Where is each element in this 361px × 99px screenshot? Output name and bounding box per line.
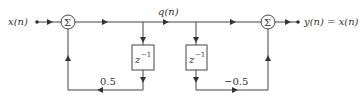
gain1-label: 0.5 bbox=[100, 76, 116, 87]
mid-label: q(n) bbox=[158, 6, 179, 17]
delay2-exp: −1 bbox=[195, 51, 205, 59]
block-diagram: Σ Σ x(n) q(n) y(n) = x(n) z −1 z −1 0.5 … bbox=[0, 0, 361, 99]
output-label: y(n) = x(n) bbox=[303, 16, 359, 27]
sum-symbol-2: Σ bbox=[264, 17, 271, 28]
output-node bbox=[296, 20, 300, 24]
delay1-base: z bbox=[134, 54, 141, 65]
input-node bbox=[35, 20, 39, 24]
input-label: x(n) bbox=[8, 16, 28, 27]
delay1-exp: −1 bbox=[141, 51, 151, 59]
sum-symbol-1: Σ bbox=[64, 17, 71, 28]
gain2-label: −0.5 bbox=[224, 76, 248, 87]
delay2-base: z bbox=[188, 54, 195, 65]
